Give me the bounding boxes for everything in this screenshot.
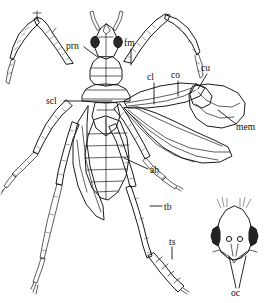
insect-anatomy-figure: prn fm cl co cu mem scl ab tb ts oc — [0, 0, 277, 303]
label-fm: fm — [124, 38, 135, 48]
label-mem: mem — [236, 122, 256, 132]
label-oc: oc — [231, 288, 240, 298]
right-compound-eye — [114, 36, 122, 47]
label-ab: ab — [150, 165, 159, 175]
left-compound-eye — [91, 36, 99, 47]
figure-canvas: prn fm cl co cu mem scl ab tb ts oc — [0, 0, 277, 303]
label-co: co — [171, 70, 180, 80]
label-prn: prn — [66, 41, 79, 51]
label-tb: tb — [164, 202, 172, 212]
figure-background — [0, 0, 277, 303]
label-ts: ts — [169, 237, 176, 247]
label-scl: scl — [46, 96, 57, 106]
label-cl: cl — [147, 72, 154, 82]
label-cu: cu — [201, 63, 210, 73]
